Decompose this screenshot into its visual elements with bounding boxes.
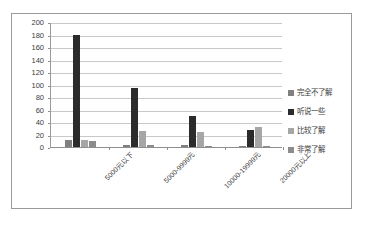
x-axis-category-label: 5000元以下 (102, 150, 134, 182)
y-axis-tick-label: 80 (36, 94, 44, 102)
legend-item[interactable]: 完全不了解 (288, 88, 350, 97)
y-axis-tick (48, 148, 50, 149)
x-axis-tick (283, 147, 284, 150)
legend-item[interactable]: 比较了解 (288, 126, 350, 135)
bar (131, 88, 138, 147)
bar (73, 35, 80, 147)
legend-item[interactable]: 听说一些 (288, 107, 350, 116)
bar (123, 145, 130, 148)
y-axis-tick-label: 60 (36, 107, 44, 115)
chart-container: 200180160140120100806040200 5000元以下5000-… (11, 13, 352, 209)
y-axis-tick-label: 100 (31, 82, 44, 90)
bar (239, 146, 246, 147)
x-axis-category-label: 10000-19999元 (222, 150, 262, 190)
legend-swatch-icon (288, 147, 294, 153)
x-axis-category-label: 5000-9999元 (162, 150, 197, 185)
bar-group (167, 22, 225, 147)
bar (139, 131, 146, 147)
y-axis-tick-label: 0 (40, 144, 44, 152)
legend-label: 比较了解 (297, 126, 325, 135)
y-axis-tick-label: 200 (31, 19, 44, 27)
bar (147, 145, 154, 147)
chart-legend: 完全不了解听说一些比较了解非常了解 (288, 88, 350, 164)
bar-group (51, 22, 109, 147)
bar (181, 145, 188, 147)
legend-swatch-icon (288, 128, 294, 134)
bar (255, 127, 262, 147)
y-axis-labels: 200180160140120100806040200 (12, 14, 48, 148)
bar-groups (51, 22, 282, 147)
legend-item[interactable]: 非常了解 (288, 145, 350, 154)
y-axis-tick-label: 160 (31, 44, 44, 52)
bar (205, 146, 212, 147)
y-axis-tick-label: 40 (36, 119, 44, 127)
bar (189, 116, 196, 147)
bar-group (225, 22, 283, 147)
legend-label: 听说一些 (297, 107, 325, 116)
bar-group (109, 22, 167, 147)
legend-label: 非常了解 (297, 145, 325, 154)
bar (197, 132, 204, 147)
x-axis-labels: 5000元以下5000-9999元10000-19999元20000元以上 (50, 150, 282, 206)
legend-swatch-icon (288, 90, 294, 96)
y-axis-tick-label: 180 (31, 32, 44, 40)
legend-swatch-icon (288, 109, 294, 115)
bar (89, 141, 96, 147)
y-axis-tick-label: 20 (36, 132, 44, 140)
y-axis-tick-label: 140 (31, 57, 44, 65)
bar (81, 140, 88, 148)
bar (247, 130, 254, 147)
plot-area (50, 23, 282, 148)
y-axis-tick-label: 120 (31, 69, 44, 77)
legend-label: 完全不了解 (297, 88, 332, 97)
bar (263, 146, 270, 147)
bar (65, 140, 72, 148)
